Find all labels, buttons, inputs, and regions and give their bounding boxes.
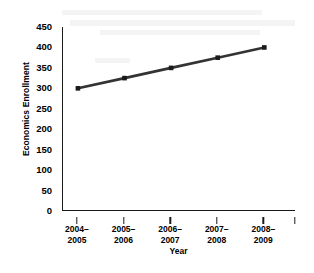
x-tick-label: 2005–2006 <box>112 224 136 246</box>
data-point-marker: 2007–2008: 375 <box>215 55 220 60</box>
x-axis-end-tick <box>294 217 295 224</box>
y-tick-label: 350 <box>36 63 52 73</box>
y-tick-label: 200 <box>36 124 52 134</box>
data-point-marker: 2004–2005: 300 <box>76 86 81 91</box>
y-tick-label: 100 <box>36 165 52 175</box>
x-tick-mark <box>123 217 124 224</box>
x-tick-mark <box>263 217 264 224</box>
plot-area: 2004–2005: 3002005–2006: 3252006–2007: 3… <box>62 27 295 211</box>
x-axis-tick-labels: 2004–20052005–20062006–20072007–20082008… <box>62 215 295 245</box>
x-tick-mark <box>216 217 217 224</box>
data-point-marker: 2005–2006: 325 <box>122 76 127 81</box>
x-axis-title: Year <box>62 246 295 256</box>
y-tick-label: 450 <box>36 22 52 32</box>
y-tick-label: 400 <box>36 43 52 53</box>
x-tick-label: 2007–2008 <box>205 224 229 246</box>
x-tick-mark <box>169 217 170 224</box>
data-point-marker: 2008–2009: 400 <box>262 45 267 50</box>
y-tick-label: 250 <box>36 104 52 114</box>
data-point-marker: 2006–2007: 350 <box>169 66 174 71</box>
y-tick-label: 0 <box>47 206 52 216</box>
x-tick-label: 2006–2007 <box>158 224 182 246</box>
y-axis-tick-labels: 050100150200250300350400450 <box>0 27 58 211</box>
scan-artifact <box>70 20 295 26</box>
y-tick-label: 150 <box>36 145 52 155</box>
y-tick-label: 50 <box>41 186 52 196</box>
x-tick-label: 2004–2005 <box>65 224 89 246</box>
enrollment-line-series: 2004–2005: 3002005–2006: 3252006–2007: 3… <box>63 27 296 211</box>
x-tick-mark <box>76 217 77 224</box>
y-tick-label: 300 <box>36 84 52 94</box>
x-tick-label: 2008–2009 <box>251 224 275 246</box>
economics-enrollment-chart: Economics Enrollment 0501001502002503003… <box>0 0 314 273</box>
scan-artifact <box>62 10 262 15</box>
